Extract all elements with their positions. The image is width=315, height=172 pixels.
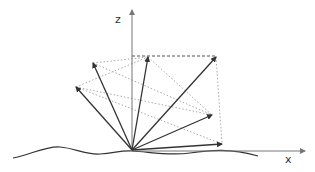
vector-4	[132, 57, 216, 150]
vector-1	[76, 87, 132, 150]
z-axis-label: z	[115, 13, 121, 26]
vector-5	[132, 115, 212, 150]
vector-6	[132, 144, 222, 150]
x-axis-label: x	[285, 153, 292, 166]
vector-diagram: z x	[0, 0, 315, 172]
vector-3	[132, 57, 148, 150]
vectors	[76, 57, 222, 150]
diagram-svg: z x	[0, 0, 315, 172]
